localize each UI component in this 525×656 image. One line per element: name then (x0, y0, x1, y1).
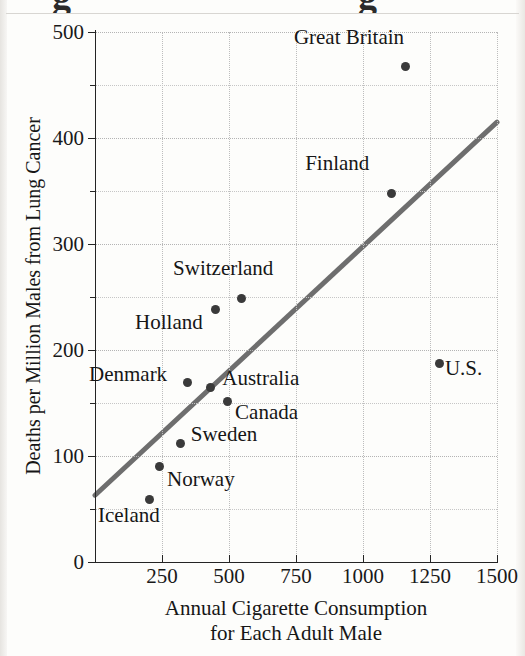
data-point[interactable] (155, 462, 164, 471)
x-axis-tick (430, 555, 431, 563)
y-axis-tick-label: 400 (14, 128, 84, 149)
y-axis-tick (88, 244, 96, 245)
data-point[interactable] (237, 294, 246, 303)
x-axis-label: Annual Cigarette Consumption for Each Ad… (95, 596, 497, 646)
y-axis-minor-tick (90, 85, 96, 86)
x-axis-tick-label: 500 (213, 566, 245, 587)
data-point-label: Canada (235, 402, 298, 423)
gridline-horizontal (95, 244, 497, 245)
x-axis-tick-label: 1500 (476, 566, 518, 587)
y-axis-minor-tick (90, 191, 96, 192)
y-axis-tick-label: 0 (14, 552, 84, 573)
x-axis-label-line2: for Each Adult Male (95, 621, 497, 646)
y-axis-tick-label: 100 (14, 446, 84, 467)
y-axis-tick (88, 32, 96, 33)
y-axis-tick (88, 350, 96, 351)
y-axis-tick-label: 300 (14, 234, 84, 255)
x-axis-label-line1: Annual Cigarette Consumption (95, 596, 497, 621)
gridline-horizontal (95, 456, 497, 457)
data-point-label: Denmark (89, 364, 167, 385)
scatter-plot-figure: Deaths per Million Males from Lung Cance… (0, 0, 525, 656)
gridline-horizontal (95, 138, 497, 139)
y-axis-tick (88, 138, 96, 139)
data-point[interactable] (206, 383, 215, 392)
y-axis-minor-tick (90, 297, 96, 298)
data-point-label: Australia (222, 368, 299, 389)
data-point-label: Norway (167, 469, 235, 490)
x-axis-tick (363, 555, 364, 563)
x-axis-tick-label: 1250 (409, 566, 451, 587)
data-point-label: Sweden (191, 424, 258, 445)
x-axis-tick (296, 555, 297, 563)
y-axis-tick-label: 500 (14, 22, 84, 43)
y-axis-tick (88, 562, 96, 563)
data-point-label: U.S. (445, 358, 482, 379)
y-axis-tick-label: 200 (14, 340, 84, 361)
data-point-label: Great Britain (294, 27, 404, 48)
data-point[interactable] (387, 189, 396, 198)
x-axis-tick-label: 1000 (342, 566, 384, 587)
plot-area (95, 32, 497, 562)
data-point-label: Finland (305, 153, 369, 174)
data-point-label: Holland (135, 312, 203, 333)
data-point-label: Switzerland (173, 258, 273, 279)
data-point[interactable] (176, 439, 185, 448)
y-axis-minor-tick (90, 403, 96, 404)
y-axis-minor-tick (90, 509, 96, 510)
x-axis-tick-label: 750 (280, 566, 312, 587)
gridline-horizontal (95, 191, 497, 192)
gridline-horizontal (95, 85, 497, 86)
x-axis-tick (162, 555, 163, 563)
y-axis-tick (88, 456, 96, 457)
x-axis-tick (229, 555, 230, 563)
data-point[interactable] (211, 305, 220, 314)
data-point-label: Iceland (98, 505, 160, 526)
gridline-vertical (497, 32, 498, 562)
x-axis-tick-label: 250 (146, 566, 178, 587)
x-axis-tick (497, 555, 498, 563)
gridline-horizontal (95, 350, 497, 351)
gridline-horizontal (95, 297, 497, 298)
